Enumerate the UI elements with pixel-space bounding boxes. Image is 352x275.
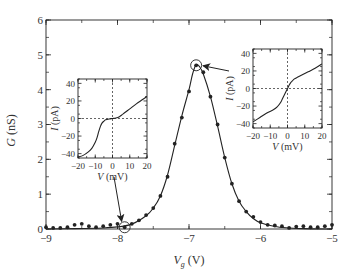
- x-tick-label: −8: [112, 232, 124, 244]
- y-tick-label: 20: [241, 66, 251, 76]
- y-tick-label: −20: [236, 101, 251, 111]
- y-tick-label: 40: [66, 79, 76, 89]
- data-point: [144, 213, 148, 217]
- data-point: [323, 224, 327, 228]
- x-tick-label: 10: [125, 161, 135, 171]
- data-point: [151, 206, 155, 210]
- x-tick-label: 0: [285, 131, 290, 141]
- inset-x-label: V (mV): [272, 141, 302, 153]
- y-tick-label: 0: [38, 223, 44, 235]
- x-tick-label: 10: [300, 131, 310, 141]
- conductance-chart: −9−8−7−6−50123456Vg (V)G (nS) −20−100102…: [0, 0, 352, 275]
- y-tick-label: 5: [38, 49, 44, 61]
- data-point: [187, 90, 191, 94]
- data-point: [108, 223, 112, 227]
- data-point: [173, 142, 177, 146]
- y-tick-label: 0: [71, 114, 76, 124]
- data-point: [330, 223, 334, 227]
- data-point: [116, 222, 120, 226]
- data-point: [58, 226, 62, 230]
- data-point: [273, 224, 277, 228]
- data-point: [123, 225, 127, 229]
- data-point: [180, 116, 184, 120]
- y-tick-label: −40: [236, 119, 251, 129]
- x-tick-label: 20: [318, 131, 328, 141]
- data-point: [209, 95, 213, 99]
- y-tick-label: 20: [66, 96, 76, 106]
- x-tick-label: −20: [246, 131, 261, 141]
- data-point: [130, 222, 134, 226]
- y-tick-label: 2: [38, 153, 44, 165]
- data-point: [166, 175, 170, 179]
- data-point: [280, 224, 284, 228]
- x-tick-label: −10: [88, 161, 103, 171]
- data-point: [223, 156, 227, 160]
- y-tick-label: −20: [61, 131, 76, 141]
- y-tick-label: 0: [246, 84, 251, 94]
- data-point: [137, 218, 141, 222]
- data-point: [216, 123, 220, 127]
- data-point: [266, 223, 270, 227]
- data-point: [309, 225, 313, 229]
- data-point: [244, 210, 248, 214]
- data-point: [230, 182, 234, 186]
- inset-y-label: I (pA): [224, 76, 236, 102]
- y-tick-label: −40: [61, 149, 76, 159]
- data-point: [294, 225, 298, 229]
- data-point: [287, 226, 291, 230]
- x-tick-label: −6: [255, 232, 267, 244]
- x-axis-label: Vg (V): [173, 253, 204, 269]
- y-tick-label: 1: [38, 188, 44, 200]
- x-tick-label: 0: [110, 161, 115, 171]
- x-tick-label: −10: [263, 131, 278, 141]
- data-point: [51, 226, 55, 230]
- y-tick-label: 40: [241, 49, 251, 59]
- data-point: [194, 63, 198, 67]
- inset-y-label: I (pA): [49, 106, 61, 132]
- data-point: [302, 224, 306, 228]
- valley-arrow: [114, 177, 122, 221]
- inset-iv-peak: −20−1001020−40−2002040V (mV)I (pA): [224, 49, 327, 153]
- data-point: [159, 194, 163, 198]
- data-point: [87, 224, 91, 228]
- y-tick-label: 3: [38, 118, 44, 130]
- data-point: [73, 223, 77, 227]
- data-point: [237, 199, 241, 203]
- data-point: [66, 225, 70, 229]
- data-point: [259, 220, 263, 224]
- data-point: [44, 225, 48, 229]
- x-tick-label: −20: [71, 161, 86, 171]
- data-point: [201, 70, 205, 74]
- x-tick-label: 20: [143, 161, 153, 171]
- data-point: [101, 224, 105, 228]
- inset-x-label: V (mV): [97, 171, 127, 183]
- inset-iv-valley: −20−1001020−40−2002040V (mV)I (pA): [49, 79, 152, 183]
- data-point: [80, 222, 84, 226]
- y-tick-label: 6: [38, 14, 44, 26]
- data-point: [316, 225, 320, 229]
- y-axis-label: G (nS): [4, 114, 18, 146]
- x-tick-label: −5: [326, 232, 338, 244]
- y-tick-label: 4: [38, 84, 44, 96]
- data-point: [94, 225, 98, 229]
- data-point: [251, 215, 255, 219]
- x-tick-label: −7: [183, 232, 195, 244]
- peak-arrow: [203, 66, 229, 71]
